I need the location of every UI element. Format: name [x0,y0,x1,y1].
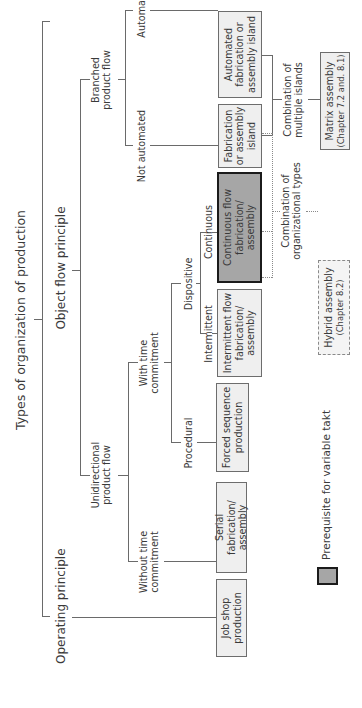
forced-sequence-box: Forced sequence production [216,383,249,472]
hybrid-assembly-box: Hybrid assembly (Chapter 8.2) [318,260,350,355]
automated-label: Automated [136,0,147,51]
connector [262,55,272,56]
object-flow-principle-label: Object flow principle [55,206,69,330]
connector [125,10,133,11]
dotted-connector [272,133,273,278]
connector [128,362,129,562]
organization-types-diagram: Types of organization of production Oper… [0,0,362,708]
dotted-connector [262,133,272,134]
connector [212,232,217,233]
matrix-assembly-box: Matrix assembly (Chapter 7.2 and. 8.1) [320,52,350,150]
connector [164,561,216,562]
connector [150,145,218,146]
job-shop-production-box: Job shop production [216,579,247,657]
connector [72,617,216,618]
connector [42,21,50,22]
procedural-label: Procedural [183,403,194,483]
intermittent-label: Intermittent [203,294,214,374]
without-time-commitment-label: Without time commitment [138,522,160,602]
organizational-types-label: Combination of organizational types [280,151,302,271]
dotted-connector [272,211,280,212]
serial-fabrication-box: Serial fabrication/ assembly [216,482,247,573]
connector [150,10,218,11]
connector [80,475,90,476]
connector [125,10,126,146]
connector [80,79,81,476]
dispositive-label: Dispositive [183,244,194,324]
connector [212,333,217,334]
dotted-connector [306,211,318,212]
connector [272,55,273,136]
connector [42,21,43,617]
diagram-title: Types of organization of production [14,200,28,440]
connector [272,99,282,100]
connector [128,362,138,363]
connector [125,145,133,146]
connector [171,283,172,443]
connector [80,79,90,80]
with-time-commitment-label: With time commitment [138,323,160,403]
connector [128,561,138,562]
dotted-connector [262,277,272,278]
operating-principle-label: Operating principle [55,554,69,664]
connector [171,442,181,443]
connector [308,99,320,100]
dotted-connector [262,231,272,232]
unidirectional-flow-label: Unidirectional product flow [90,430,112,520]
connector [171,283,181,284]
legend-swatch [317,567,338,585]
continuous-flow-box: Continuous flow fabrication/ assembly [217,172,262,283]
fabrication-island-box: Fabrication or assembly island [218,104,262,168]
intermittent-flow-box: Intermittent flow fabrication/ assembly [217,289,262,377]
connector [34,319,42,320]
connector [197,442,216,443]
connector [42,616,50,617]
connector [72,270,80,271]
connector [262,135,272,136]
automated-island-box: Automated fabrication or assembly island [218,11,262,98]
multiple-islands-label: Combination of multiple islands [282,55,304,145]
legend-label: Prerequisite for variable takt [320,410,332,560]
connector [118,475,128,476]
branched-flow-label: Branched product flow [90,40,112,120]
not-automated-label: Not automated [136,106,147,186]
connector [200,232,201,334]
connector [164,362,171,363]
connector [118,79,125,80]
